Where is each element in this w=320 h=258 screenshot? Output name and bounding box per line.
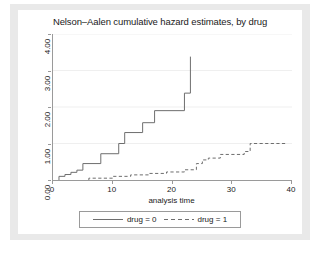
chart-legend: drug = 0 drug = 1 [79,211,241,228]
y-tick-label: 4.00 [43,34,52,60]
plot-area [52,34,292,181]
plot-svg [53,34,292,180]
x-tick-label: 20 [162,185,182,194]
graph-region: Nelson–Aalen cumulative hazard estimates… [10,4,310,240]
legend-label-drug-1: drug = 1 [198,215,228,224]
gridlines [53,34,292,144]
legend-key-solid [93,216,123,223]
x-tick-label: 40 [281,185,301,194]
x-tick-label: 30 [221,185,241,194]
x-tick-mark [172,181,173,184]
y-tick-label: 1.00 [43,143,52,169]
graph-inner-canvas: Nelson–Aalen cumulative hazard estimates… [18,10,302,234]
y-tick-label: 2.00 [43,107,52,133]
x-tick-label: 0 [42,185,62,194]
x-tick-mark [231,181,232,184]
legend-entry-drug-0: drug = 0 [93,215,157,224]
legend-entry-drug-1: drug = 1 [164,215,228,224]
legend-label-drug-0: drug = 0 [127,215,157,224]
series-lines [59,57,286,180]
legend-key-dashed [164,216,194,223]
x-tick-mark [291,181,292,184]
series-line-0 [59,57,190,180]
chart-title: Nelson–Aalen cumulative hazard estimates… [18,16,302,27]
x-tick-mark [52,181,53,184]
x-tick-label: 10 [102,185,122,194]
x-axis-title: analysis time [52,196,291,205]
y-tick-label: 3.00 [43,70,52,96]
x-tick-mark [112,181,113,184]
